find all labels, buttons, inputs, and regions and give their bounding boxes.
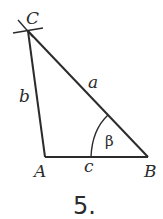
side-label-b: b [19,86,30,106]
side-label-c: c [84,156,94,176]
triangle-diagram: C A B a b c β 5. [0,0,163,219]
side-label-a: a [88,72,98,92]
side-a-line [28,31,148,157]
vertex-label-a: A [32,161,46,181]
angle-label-beta: β [105,132,114,150]
vertex-label-b: B [143,161,157,181]
diagram-svg: C A B a b c β 5. [0,0,163,219]
side-b-line [28,31,45,157]
figure-number: 5. [73,192,96,219]
vertex-label-c: C [26,8,39,28]
